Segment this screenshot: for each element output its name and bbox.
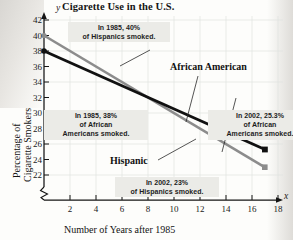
chart-container: Cigarette Use in the U.S. y x 42 40 38 3…: [0, 0, 293, 240]
x-tick-label: 8: [139, 204, 157, 214]
x-tick-label: 10: [165, 204, 183, 214]
annotation-hispanic-1985: In 1985, 40% of Hispanics smoked.: [68, 22, 170, 42]
series-label-african-american: African American: [170, 61, 247, 72]
x-tick-label: 12: [191, 204, 209, 214]
y-axis-title-line2: Cigarette Smokers: [22, 108, 33, 182]
chart-title: Cigarette Use in the U.S.: [62, 1, 175, 12]
y-tick-label: 34: [24, 77, 42, 87]
y-tick-label: 38: [24, 46, 42, 56]
y-tick-label: 40: [24, 31, 42, 41]
y-axis-ticks: [44, 20, 49, 175]
x-axis-letter: x: [284, 191, 288, 201]
y-tick-label: 42: [24, 15, 42, 25]
x-tick-label: 18: [269, 204, 287, 214]
x-tick-label: 2: [61, 204, 79, 214]
y-tick-label: 32: [24, 93, 42, 103]
y-tick-label: 36: [24, 62, 42, 72]
annotation-african-american-1985: In 1985, 38% of African Americans smoked…: [44, 110, 148, 140]
x-tick-label: 6: [113, 204, 131, 214]
series-label-hispanic: Hispanic: [110, 155, 148, 166]
x-tick-label: 16: [243, 204, 261, 214]
annotation-hispanic-2002: In 2002, 23% of Hispanics smoked.: [115, 177, 219, 197]
x-tick-label: 14: [217, 204, 235, 214]
x-tick-label: 4: [87, 204, 105, 214]
y-axis-letter: y: [56, 3, 60, 13]
annotation-african-american-2002: In 2002, 25.3% of African Americans smok…: [208, 110, 293, 140]
x-axis-title: Number of Years after 1985: [64, 224, 175, 235]
y-axis-title-line1: Percentage of: [11, 123, 22, 178]
x-axis: [44, 197, 283, 203]
